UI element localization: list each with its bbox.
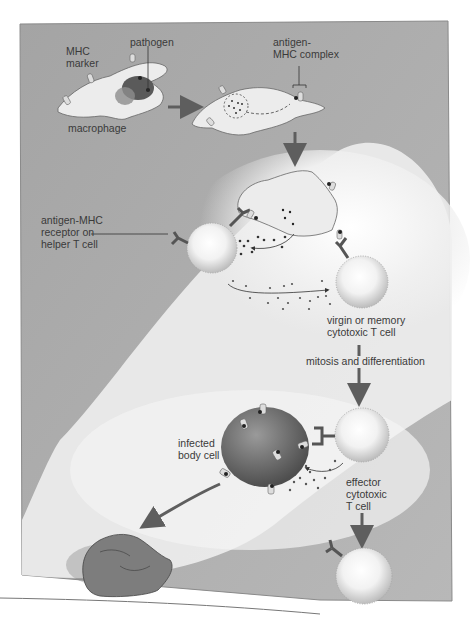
label-mitosis: mitosis and differentiation <box>306 355 425 367</box>
diagram-canvas <box>0 0 472 621</box>
page-curl-line <box>0 598 320 614</box>
label-antigen-mhc-complex: antigen- MHC complex <box>273 36 339 60</box>
label-infected: infected body cell <box>178 437 219 461</box>
label-receptor: antigen-MHC receptor on helper T cell <box>41 214 103 250</box>
label-pathogen: pathogen <box>130 36 174 48</box>
label-mhc-marker: MHC marker <box>66 45 99 69</box>
label-macrophage: macrophage <box>68 122 126 134</box>
label-effector: effector cytotoxic T cell <box>346 476 387 512</box>
label-virgin-memory: virgin or memory cytotoxic T cell <box>327 314 405 338</box>
immune-response-diagram: MHC marker pathogen antigen- MHC complex… <box>0 0 472 621</box>
